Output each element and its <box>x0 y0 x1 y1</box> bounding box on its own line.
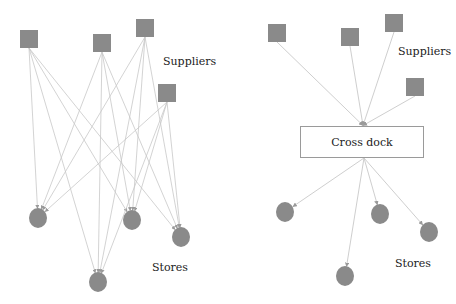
supplier-node-square <box>158 84 176 102</box>
store-node-circle <box>336 266 354 286</box>
supplier-node-square <box>341 28 359 46</box>
store-node-circle <box>172 227 190 247</box>
store-node-circle <box>29 208 47 228</box>
shipment-edge <box>29 48 95 273</box>
inbound-edge <box>363 96 415 126</box>
supplier-node-square <box>20 30 38 48</box>
supplier-node-square <box>136 19 154 37</box>
outbound-edge <box>293 158 364 207</box>
shipment-edge <box>100 37 145 273</box>
supplier-node-square <box>268 24 286 42</box>
shipment-edge <box>43 37 145 210</box>
inbound-edge <box>363 32 394 126</box>
shipment-edge <box>45 102 167 212</box>
shipment-edge <box>29 48 127 212</box>
supplier-node-square <box>93 34 111 52</box>
supplier-node-square <box>406 78 424 96</box>
inbound-edge <box>350 46 363 126</box>
store-node-circle <box>276 202 294 222</box>
supplier-node-square <box>385 14 403 32</box>
right-stores-label: Stores <box>395 258 431 269</box>
store-node-circle <box>371 204 389 224</box>
store-node-circle <box>123 210 141 230</box>
left-suppliers-label: Suppliers <box>163 56 216 67</box>
left-stores-label: Stores <box>152 262 188 273</box>
left-edges <box>29 37 180 273</box>
inbound-edge <box>277 42 363 126</box>
shipment-edge <box>41 52 102 209</box>
right-suppliers-label: Suppliers <box>398 46 451 57</box>
distribution-network-diagram: Suppliers Stores Suppliers Cross dock St… <box>0 0 456 304</box>
store-node-circle <box>89 272 107 292</box>
store-node-circle <box>420 222 438 242</box>
cross-dock-box: Cross dock <box>300 126 424 158</box>
outbound-edge <box>347 158 364 267</box>
